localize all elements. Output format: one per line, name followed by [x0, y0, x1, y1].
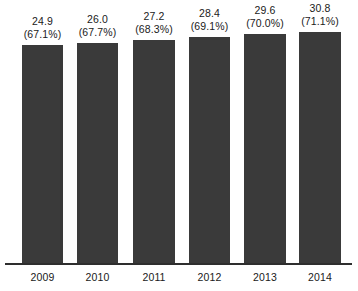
x-tick-2011: 2011: [133, 270, 175, 284]
bar-group: 27.2 (68.3%): [133, 0, 175, 264]
bar-2010[interactable]: [77, 43, 118, 264]
x-tick-2010: 2010: [77, 270, 118, 284]
x-tick-2012: 2012: [189, 270, 230, 284]
bar-2013[interactable]: [244, 34, 286, 264]
bar-chart: 24.9 (67.1%) 26.0 (67.7%) 27.2 (68.3%) 2…: [0, 0, 358, 291]
bar-group: 24.9 (67.1%): [22, 0, 63, 264]
x-tick-2013: 2013: [244, 270, 286, 284]
bar-value-label: 29.6 (70.0%): [246, 4, 283, 29]
bar-2014[interactable]: [299, 32, 341, 264]
bar-value: 24.9: [24, 15, 61, 28]
bar-group: 26.0 (67.7%): [77, 0, 118, 264]
bar-2011[interactable]: [133, 40, 175, 264]
x-tick-2014: 2014: [299, 270, 341, 284]
bar-value: 30.8: [301, 2, 338, 15]
bar-percent: (69.1%): [191, 20, 228, 33]
bar-value-label: 26.0 (67.7%): [79, 13, 116, 38]
x-tick-2009: 2009: [22, 270, 63, 284]
plot-area: 24.9 (67.1%) 26.0 (67.7%) 27.2 (68.3%) 2…: [0, 0, 358, 264]
bar-percent: (70.0%): [246, 17, 283, 30]
bar-percent: (67.1%): [24, 28, 61, 41]
bar-group: 30.8 (71.1%): [299, 0, 341, 264]
bar-value: 29.6: [246, 4, 283, 17]
bar-value: 27.2: [135, 10, 172, 23]
bar-value-label: 30.8 (71.1%): [301, 2, 338, 27]
bar-percent: (68.3%): [135, 23, 172, 36]
bar-value-label: 24.9 (67.1%): [24, 15, 61, 40]
bar-2009[interactable]: [22, 45, 63, 264]
bar-2012[interactable]: [189, 37, 230, 264]
bar-value-label: 28.4 (69.1%): [191, 7, 228, 32]
bar-group: 29.6 (70.0%): [244, 0, 286, 264]
bar-value: 26.0: [79, 13, 116, 26]
bar-value: 28.4: [191, 7, 228, 20]
bar-value-label: 27.2 (68.3%): [135, 10, 172, 35]
x-axis-line: [5, 263, 352, 265]
bar-group: 28.4 (69.1%): [189, 0, 230, 264]
bar-percent: (67.7%): [79, 26, 116, 39]
bar-percent: (71.1%): [301, 15, 338, 28]
